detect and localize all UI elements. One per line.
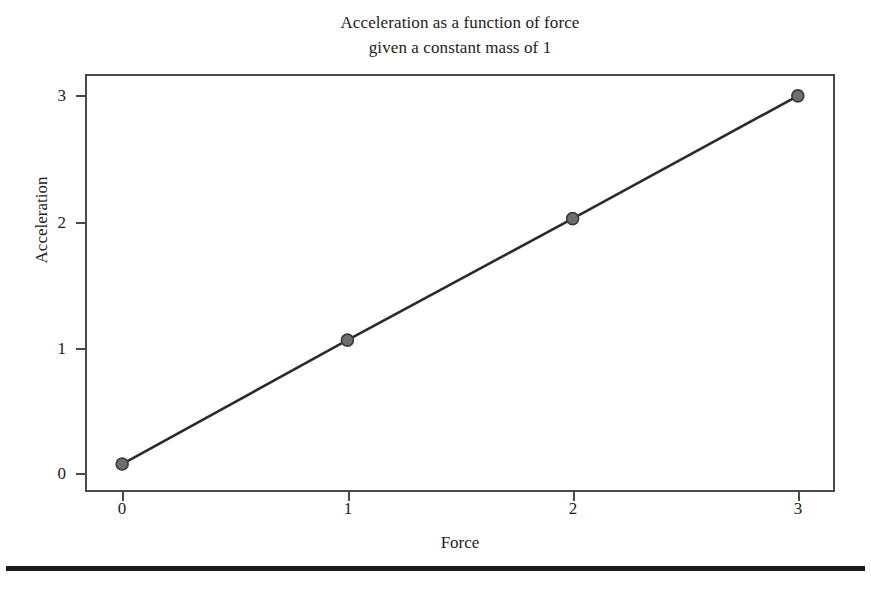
y-tick-mark-1 bbox=[76, 348, 85, 350]
y-tick-mark-3 bbox=[76, 95, 85, 97]
data-point-2 bbox=[567, 213, 579, 225]
x-tick-mark-0 bbox=[122, 492, 124, 501]
data-point-1 bbox=[341, 334, 353, 346]
x-tick-label-3: 3 bbox=[778, 500, 818, 517]
y-tick-label-2: 2 bbox=[26, 214, 66, 231]
chart-title-line-2: given a constant mass of 1 bbox=[85, 35, 835, 60]
x-axis-title: Force bbox=[85, 533, 835, 553]
y-tick-label-3: 3 bbox=[26, 87, 66, 104]
y-tick-mark-0 bbox=[76, 473, 85, 475]
data-point-0 bbox=[116, 458, 128, 470]
x-tick-label-2: 2 bbox=[553, 500, 593, 517]
plot-data-layer bbox=[85, 74, 835, 492]
y-tick-label-1: 1 bbox=[26, 340, 66, 357]
data-point-3 bbox=[792, 90, 804, 102]
chart-title: Acceleration as a function of force give… bbox=[85, 10, 835, 60]
x-tick-mark-1 bbox=[348, 492, 350, 501]
y-tick-label-0: 0 bbox=[26, 465, 66, 482]
x-tick-mark-2 bbox=[573, 492, 575, 501]
chart-title-line-1: Acceleration as a function of force bbox=[85, 10, 835, 35]
figure-container: Acceleration as a function of force give… bbox=[0, 0, 871, 592]
data-line-acceleration bbox=[122, 96, 798, 464]
y-tick-mark-2 bbox=[76, 222, 85, 224]
x-tick-mark-3 bbox=[798, 492, 800, 501]
x-tick-label-0: 0 bbox=[102, 500, 142, 517]
page-separator-rule bbox=[6, 566, 865, 571]
x-tick-label-1: 1 bbox=[328, 500, 368, 517]
